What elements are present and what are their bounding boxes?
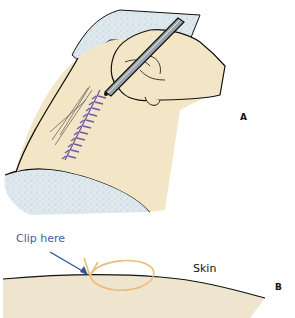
clip-arrow [50, 252, 88, 275]
illustration [0, 0, 295, 318]
figure-canvas: A Clip here Skin B [0, 0, 295, 318]
skin-cross-section [3, 275, 265, 318]
panel-b-label: B [275, 282, 282, 292]
panel-a-label: A [240, 112, 247, 122]
skin-label: Skin [193, 262, 216, 275]
clip-here-label: Clip here [16, 232, 65, 245]
